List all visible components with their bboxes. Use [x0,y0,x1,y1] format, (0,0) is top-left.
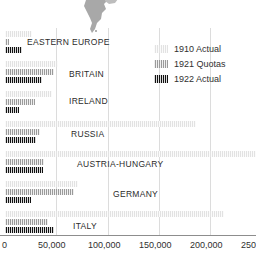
bar-group-austria-hungary: Austria-Hungary [0,148,256,178]
category-label-austria-hungary: Austria-Hungary [77,159,164,169]
bar-group-russia: Russia [0,118,256,148]
x-tick-label-50000: 50,000 [38,240,66,250]
legend: 1910 Actual 1921 Quotas 1922 Actual [154,41,254,86]
x-axis: 0 50,000 100,000 150,000 200,000 250,000 [0,235,256,259]
bar-1921-quotas [5,39,9,45]
bar-1910-actual [5,211,224,217]
bar-group-italy: Italy [0,208,256,238]
legend-swatch-icon [154,75,168,83]
legend-label: 1921 Quotas [174,59,226,69]
x-tick-label-200000: 200,000 [190,240,223,250]
x-tick-label-0: 0 [2,240,7,250]
axis-line [0,235,256,236]
bars [0,208,256,238]
bar-1922-actual [5,77,42,83]
category-label-germany: Germany [113,189,158,199]
legend-item-1910-actual[interactable]: 1910 Actual [154,41,254,56]
category-label-russia: Russia [71,129,104,139]
bar-1922-actual [5,227,54,233]
bar-1910-actual [5,61,58,67]
bar-1922-actual [5,107,19,113]
category-label-eastern-europe: Eastern Europe [27,37,110,47]
bar-1922-actual [5,47,22,53]
legend-swatch-icon [154,60,168,68]
x-tick-label-250000: 250,000 [241,240,256,250]
bar-1921-quotas [5,69,54,75]
bar-1922-actual [5,197,31,203]
bar-1910-actual [5,151,256,157]
bar-1921-quotas [5,219,48,225]
bar-1910-actual [5,121,196,127]
legend-item-1921-quotas[interactable]: 1921 Quotas [154,56,254,71]
bar-1910-actual [5,91,52,97]
x-tick-label-150000: 150,000 [139,240,172,250]
bar-1921-quotas [5,99,35,105]
bar-1922-actual [5,167,43,173]
bar-group-ireland: Ireland [0,88,256,118]
bar-1921-quotas [5,189,74,195]
legend-item-1922-actual[interactable]: 1922 Actual [154,71,254,86]
legend-swatch-icon [154,45,168,53]
bar-1921-quotas [5,129,40,135]
category-label-ireland: Ireland [69,96,108,106]
bar-1922-actual [5,137,36,143]
bars [0,88,256,118]
bar-group-germany: Germany [0,178,256,208]
immigration-bar-chart: Eastern Europe Britain Ireland [0,0,256,259]
category-label-italy: Italy [73,221,97,231]
x-tick-label-100000: 100,000 [88,240,121,250]
bar-1910-actual [5,181,78,187]
bars [0,118,256,148]
legend-label: 1910 Actual [174,44,221,54]
category-label-britain: Britain [69,69,104,79]
bar-1921-quotas [5,159,44,165]
legend-label: 1922 Actual [174,74,221,84]
